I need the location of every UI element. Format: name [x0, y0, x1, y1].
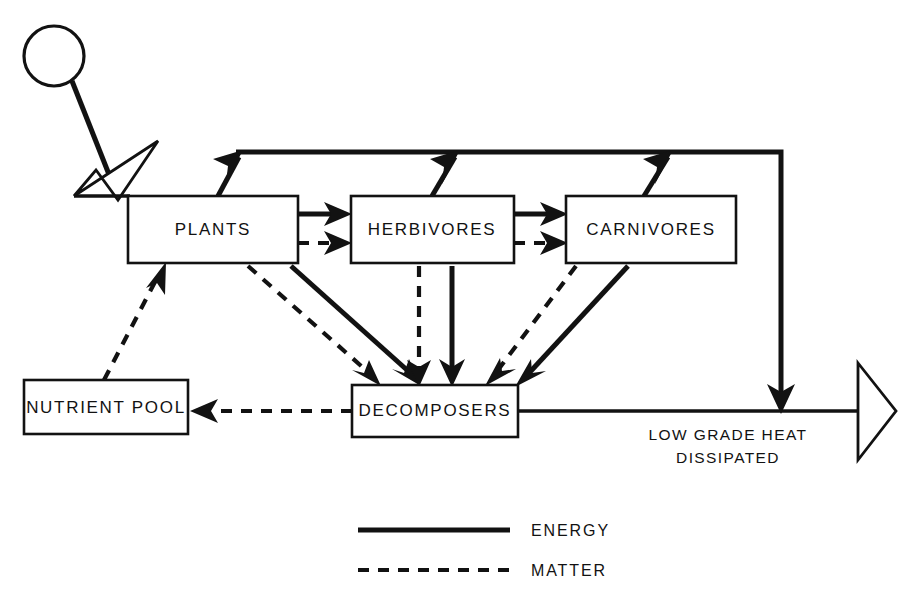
- plants-label: PLANTS: [175, 220, 251, 239]
- flow-nutrient-to-plants-matter: [104, 262, 166, 380]
- flow-carnivores-respiration: [643, 150, 673, 196]
- diagram-canvas: PLANTS HERBIVORES CARNIVORES NUTRIENT PO…: [0, 0, 906, 607]
- heat-dissipation-arrowhead-icon: [858, 363, 896, 460]
- sun-icon: [24, 26, 84, 86]
- flow-herbivores-to-carnivores-matter: [514, 231, 568, 255]
- flow-herbivores-to-decomposers-energy: [439, 266, 465, 387]
- legend-item-matter: MATTER: [358, 562, 607, 579]
- carnivores-decomposers-matter-line: [498, 266, 576, 370]
- flow-plants-to-herbivores-energy: [298, 202, 352, 226]
- flow-herbivores-to-carnivores-energy: [514, 202, 568, 226]
- flow-decomposers-to-nutrient-matter: [190, 399, 352, 423]
- ecosystem-diagram: PLANTS HERBIVORES CARNIVORES NUTRIENT PO…: [0, 0, 906, 607]
- legend-item-energy: ENERGY: [358, 522, 610, 539]
- heat-collection-bus: [236, 152, 795, 414]
- solar-ray-line: [72, 81, 112, 182]
- legend-matter-label: MATTER: [531, 562, 607, 579]
- nutrient-pool-label: NUTRIENT POOL: [26, 398, 186, 417]
- node-carnivores[interactable]: CARNIVORES: [566, 196, 736, 263]
- sun-group: [24, 26, 158, 200]
- decomposers-label: DECOMPOSERS: [359, 401, 512, 420]
- herbivores-respiration-arrowhead-icon: [430, 150, 460, 184]
- nutrient-plants-matter-line: [104, 278, 157, 380]
- flow-herbivores-respiration: [430, 150, 460, 196]
- heat-caption-line-2: DISSIPATED: [676, 449, 780, 466]
- legend-energy-label: ENERGY: [531, 522, 610, 539]
- flow-plants-to-herbivores-matter: [298, 231, 352, 255]
- carnivores-label: CARNIVORES: [586, 220, 715, 239]
- node-nutrient-pool[interactable]: NUTRIENT POOL: [24, 380, 188, 434]
- solar-input-arrowhead-icon: [74, 141, 158, 200]
- plants-respiration-arrowhead-icon: [213, 150, 243, 183]
- herbivores-label: HERBIVORES: [368, 220, 496, 239]
- node-herbivores[interactable]: HERBIVORES: [351, 196, 514, 263]
- carnivores-decomposers-matter-arrowhead-icon: [485, 358, 516, 386]
- node-decomposers[interactable]: DECOMPOSERS: [352, 385, 518, 437]
- carnivores-decomposers-energy-line: [530, 266, 628, 372]
- plants-decomposers-energy-line: [291, 266, 407, 370]
- flow-carnivores-to-decomposers-energy: [515, 266, 628, 387]
- node-plants[interactable]: PLANTS: [128, 196, 298, 263]
- heat-bus-line: [236, 152, 781, 396]
- flow-heat-dissipation: [518, 363, 896, 460]
- legend: ENERGY MATTER: [358, 522, 610, 579]
- heat-caption: LOW GRADE HEAT DISSIPATED: [649, 426, 808, 466]
- flow-plants-respiration: [213, 150, 243, 196]
- decomposers-nutrient-arrowhead-icon: [190, 399, 218, 423]
- heat-caption-line-1: LOW GRADE HEAT: [649, 426, 808, 443]
- carnivores-respiration-arrowhead-icon: [643, 150, 673, 184]
- flow-plants-to-decomposers-energy: [291, 266, 421, 386]
